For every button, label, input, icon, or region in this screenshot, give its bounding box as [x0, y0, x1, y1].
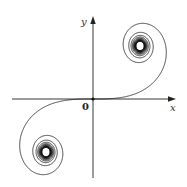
origin-point — [91, 97, 94, 100]
x-axis-arrow-icon — [168, 96, 176, 101]
y-axis-arrow-icon — [90, 16, 95, 24]
cornu-spiral-figure: y x 0 — [0, 0, 187, 187]
plot-area — [0, 0, 187, 187]
y-axis-label: y — [81, 17, 87, 27]
origin-label: 0 — [82, 102, 89, 112]
x-axis-label: x — [170, 103, 176, 113]
